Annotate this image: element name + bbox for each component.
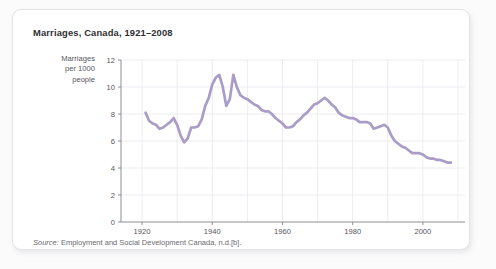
y-tick-labels-group: 024681012 (107, 56, 115, 227)
y-tick-label: 0 (111, 218, 115, 227)
y-tick-label: 10 (107, 83, 115, 92)
y-tick-label: 8 (111, 110, 115, 119)
source-note: Source: Employment and Social Developmen… (33, 238, 241, 247)
y-tick-label: 6 (111, 137, 115, 146)
series-line-marriages (146, 75, 451, 163)
line-chart: 024681012 19201940196019802000 (13, 10, 471, 251)
x-tick-label: 2000 (414, 227, 431, 236)
source-text: Employment and Social Development Canada… (59, 238, 242, 247)
y-tick-label: 12 (107, 56, 115, 65)
y-tick-label: 2 (111, 191, 115, 200)
data-series-group (146, 75, 451, 163)
source-label: Source: (33, 238, 59, 247)
x-tick-label: 1940 (204, 227, 221, 236)
x-tick-labels-group: 19201940196019802000 (134, 227, 432, 236)
figure-card: Marriages, Canada, 1921–2008 Marriages p… (12, 9, 470, 250)
x-tick-label: 1960 (274, 227, 291, 236)
y-tick-label: 4 (111, 164, 115, 173)
x-tick-label: 1920 (134, 227, 151, 236)
gridlines-group (121, 60, 465, 222)
axis-lines-group (118, 60, 465, 225)
x-tick-label: 1980 (344, 227, 361, 236)
